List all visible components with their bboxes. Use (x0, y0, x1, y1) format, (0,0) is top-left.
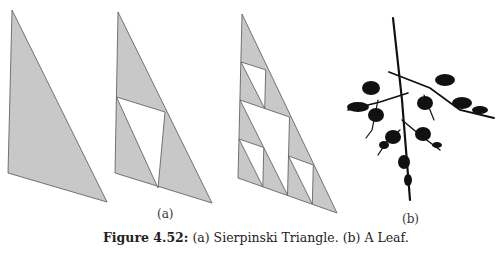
caption-text: (a) Sierpinski Triangle. (b) A Leaf. (192, 230, 408, 245)
panel-label-a: (a) (157, 207, 174, 221)
fractal-leaf (347, 18, 494, 200)
figure-number: Figure 4.52: (103, 230, 188, 245)
sierpinski-iteration-0 (8, 10, 107, 202)
figure-canvas (0, 0, 504, 253)
panel-label-b: (b) (402, 212, 419, 226)
figure-caption: Figure 4.52: (a) Sierpinski Triangle. (b… (103, 230, 409, 245)
sierpinski-iteration-2 (238, 14, 337, 213)
sierpinski-iteration-1 (115, 12, 212, 203)
